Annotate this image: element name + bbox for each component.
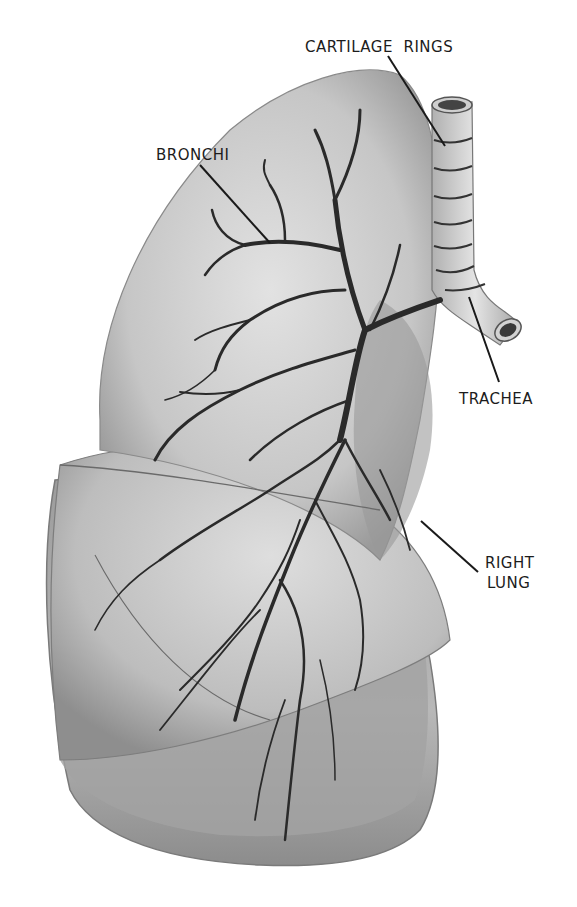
label-right-lung-line2: LUNG bbox=[487, 574, 530, 592]
label-trachea: TRACHEA bbox=[459, 390, 533, 408]
label-right-lung-line1: RIGHT bbox=[485, 554, 534, 572]
leader-right-lung bbox=[421, 521, 478, 572]
lung-diagram bbox=[0, 0, 577, 907]
label-bronchi: BRONCHI bbox=[156, 146, 229, 164]
label-cartilage-rings: CARTILAGE RINGS bbox=[305, 38, 453, 56]
trachea bbox=[432, 97, 525, 346]
